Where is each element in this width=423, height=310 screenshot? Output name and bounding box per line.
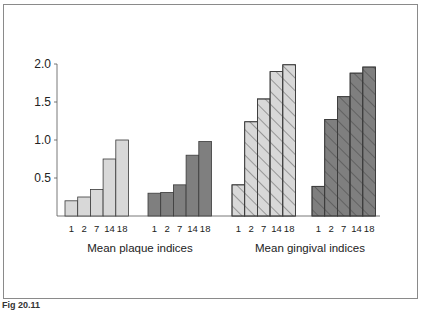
x-tick-label: 14 — [351, 223, 362, 234]
bar — [186, 155, 199, 216]
x-tick-label: 7 — [341, 223, 346, 234]
x-tick-label: 14 — [271, 223, 282, 234]
x-tick-label: 1 — [236, 223, 241, 234]
bar — [148, 193, 161, 216]
x-tick-label: 7 — [177, 223, 182, 234]
x-tick-label: 1 — [152, 223, 157, 234]
x-tick-label: 18 — [117, 223, 128, 234]
x-tick-label: 18 — [284, 223, 295, 234]
x-tick-label: 2 — [81, 223, 86, 234]
bar — [161, 192, 174, 216]
bar — [65, 201, 78, 216]
bars — [65, 65, 376, 216]
bar — [312, 186, 325, 216]
group-label: Mean plaque indices — [87, 242, 193, 254]
bar — [173, 185, 186, 216]
x-tick-label: 2 — [164, 223, 169, 234]
x-tick-label: 2 — [248, 223, 253, 234]
y-tick-label: 2.0 — [34, 57, 51, 71]
bar — [363, 67, 376, 216]
bar — [245, 122, 258, 216]
bar — [257, 99, 270, 216]
x-tick-label: 18 — [200, 223, 211, 234]
bar — [325, 119, 338, 216]
bar — [116, 140, 129, 216]
x-tick-label: 1 — [316, 223, 321, 234]
x-tick-label: 18 — [364, 223, 375, 234]
bar — [337, 97, 350, 216]
bar — [270, 72, 283, 216]
x-tick-label: 14 — [104, 223, 115, 234]
x-tick-label: 1 — [69, 223, 74, 234]
x-tick-label: 14 — [187, 223, 198, 234]
y-tick-label: 1.5 — [34, 95, 51, 109]
group-label: Mean gingival indices — [255, 242, 365, 254]
x-tick-label: 7 — [94, 223, 99, 234]
bar — [283, 65, 296, 216]
bar — [78, 197, 91, 216]
x-tick-label: 7 — [261, 223, 266, 234]
group-labels: Mean plaque indicesMean gingival indices — [87, 242, 365, 254]
bar — [199, 142, 212, 216]
y-tick-label: 1.0 — [34, 133, 51, 147]
x-axis-labels: 1271418127141812714181271418 — [69, 223, 375, 234]
y-tick-label: 0.5 — [34, 171, 51, 185]
x-tick-label: 2 — [328, 223, 333, 234]
bar — [90, 189, 103, 216]
bar — [232, 185, 245, 216]
figure-caption: Fig 20.11 — [2, 300, 40, 310]
bar — [350, 73, 363, 216]
bar — [103, 159, 116, 216]
